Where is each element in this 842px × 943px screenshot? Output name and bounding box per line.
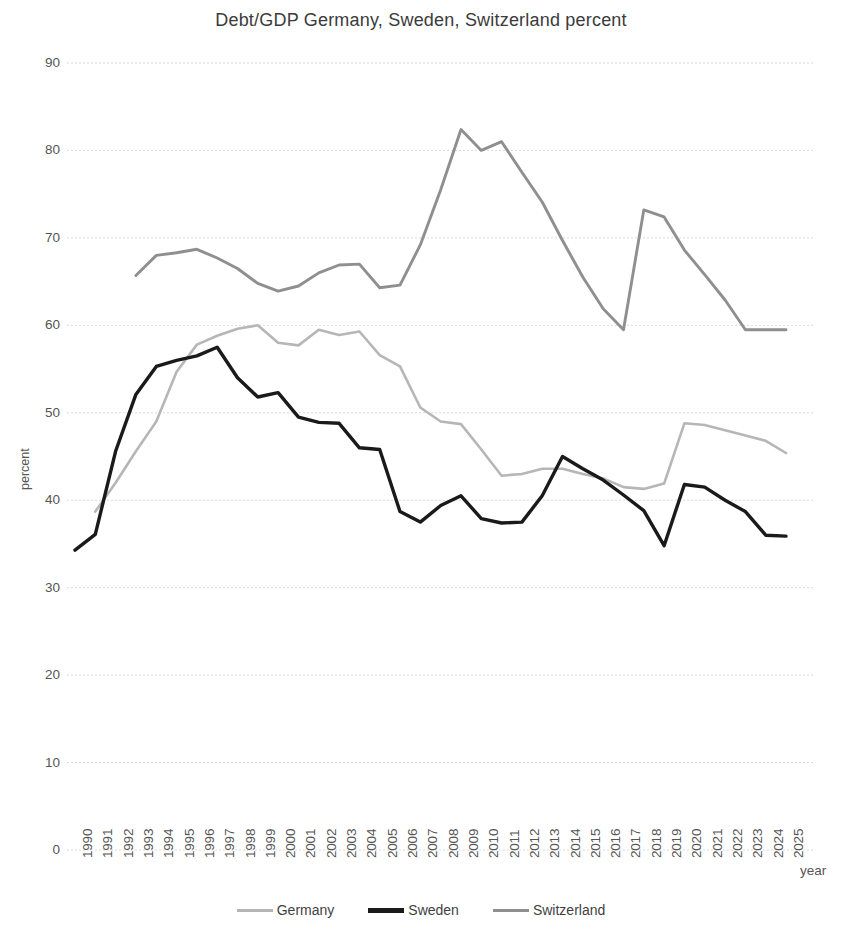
y-tick-label: 30 (20, 581, 60, 594)
x-tick-label: 1999 (263, 829, 278, 858)
x-tick-label: 2018 (649, 829, 664, 858)
x-tick-label: 1998 (243, 829, 258, 858)
x-tick-label: 2024 (771, 829, 786, 858)
x-axis-title: year (800, 863, 826, 878)
y-tick-label: 20 (20, 668, 60, 681)
gridlines (67, 63, 815, 850)
x-tick-label: 1991 (100, 829, 115, 858)
series-line-switzerland (136, 130, 786, 330)
x-tick-label: 1993 (141, 829, 156, 858)
x-tick-label: 2016 (608, 829, 623, 858)
x-tick-label: 2006 (405, 829, 420, 858)
y-tick-label: 80 (20, 143, 60, 156)
x-tick-label: 2020 (689, 829, 704, 858)
y-tick-label: 50 (20, 406, 60, 419)
y-tick-label: 70 (20, 231, 60, 244)
plot-area (0, 0, 842, 943)
chart-container: Debt/GDP Germany, Sweden, Switzerland pe… (0, 0, 842, 943)
x-tick-label: 2025 (791, 829, 806, 858)
legend-swatch-icon (368, 908, 404, 913)
y-tick-label: 40 (20, 493, 60, 506)
x-tick-label: 2003 (344, 829, 359, 858)
y-axis-title: percent (18, 448, 32, 490)
x-tick-label: 2012 (527, 829, 542, 858)
x-tick-label: 1995 (182, 829, 197, 858)
x-tick-label: 2009 (466, 829, 481, 858)
legend-item-sweden[interactable]: Sweden (368, 903, 459, 917)
x-tick-label: 2001 (303, 829, 318, 858)
x-tick-label: 2019 (669, 829, 684, 858)
legend-item-germany[interactable]: Germany (237, 903, 335, 917)
chart-legend: GermanySwedenSwitzerland (0, 903, 842, 917)
series-line-sweden (75, 347, 786, 550)
x-tick-label: 2015 (588, 829, 603, 858)
x-tick-label: 2010 (486, 829, 501, 858)
y-tick-label: 0 (20, 843, 60, 856)
x-tick-label: 2002 (324, 829, 339, 858)
x-tick-label: 2004 (364, 829, 379, 858)
x-tick-label: 2005 (385, 829, 400, 858)
x-tick-label: 2022 (730, 829, 745, 858)
legend-swatch-icon (493, 909, 529, 912)
legend-label: Switzerland (533, 903, 605, 917)
y-tick-label: 60 (20, 318, 60, 331)
x-tick-label: 2008 (446, 829, 461, 858)
legend-swatch-icon (237, 909, 273, 912)
legend-label: Germany (277, 903, 335, 917)
x-tick-label: 2000 (283, 829, 298, 858)
x-tick-label: 1994 (161, 829, 176, 858)
x-tick-label: 2021 (710, 829, 725, 858)
series-lines (75, 130, 786, 551)
x-tick-label: 2014 (568, 829, 583, 858)
x-tick-label: 2023 (750, 829, 765, 858)
x-tick-label: 2011 (507, 830, 522, 858)
legend-label: Sweden (408, 903, 459, 917)
x-tick-label: 1992 (121, 829, 136, 858)
x-tick-label: 1990 (80, 829, 95, 858)
x-tick-label: 1996 (202, 829, 217, 858)
x-tick-label: 2017 (628, 829, 643, 858)
y-tick-label: 10 (20, 756, 60, 769)
y-tick-label: 90 (20, 56, 60, 69)
x-tick-label: 2007 (425, 829, 440, 858)
x-tick-label: 2013 (547, 829, 562, 858)
x-tick-label: 1997 (222, 829, 237, 858)
legend-item-switzerland[interactable]: Switzerland (493, 903, 605, 917)
